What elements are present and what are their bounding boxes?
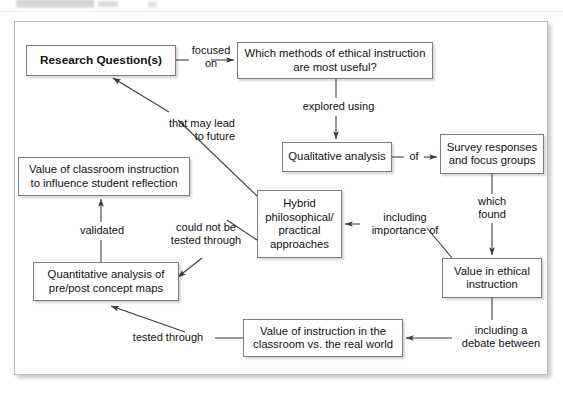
node-survey-responses[interactable]: Survey responses and focus groups: [440, 134, 544, 174]
node-qualitative-analysis[interactable]: Qualitative analysis: [282, 142, 392, 172]
edge-label-that-may-lead-to-future: that may lead to future: [151, 117, 235, 143]
edge-label-explored-using: explored using: [291, 100, 386, 113]
edge-label-could-not-be-tested-through: could not be tested through: [164, 221, 248, 247]
node-quantitative-analysis[interactable]: Quantitative analysis of pre/post concep…: [33, 262, 179, 301]
node-which-methods[interactable]: Which methods of ethical instruction are…: [237, 42, 433, 79]
edge-label-of: of: [404, 150, 424, 163]
edge-that-may-lead-arrow: [113, 78, 169, 112]
edge-label-focused-on: focused on: [186, 44, 236, 70]
edge-label-validated: validated: [73, 224, 131, 237]
node-hybrid-approaches[interactable]: Hybrid philosophical/ practical approach…: [257, 190, 342, 258]
node-value-classroom-instruction[interactable]: Value of classroom instruction to influe…: [18, 157, 190, 196]
edge-could-not-be-tested-arrow: [178, 258, 202, 277]
edge-label-including-a-debate-between: including a debate between: [454, 324, 548, 350]
edge-label-which-found: which found: [468, 195, 516, 221]
edge-label-tested-through: tested through: [122, 331, 214, 344]
node-value-ethical-instruction[interactable]: Value in ethical instruction: [442, 258, 542, 298]
edge-label-including-importance-of: including importance of: [362, 211, 448, 237]
edge-tested-through-arrow: [111, 306, 185, 332]
node-value-instruction-classroom-real-world[interactable]: Value of instruction in the classroom vs…: [243, 319, 403, 357]
node-research-question[interactable]: Research Question(s): [26, 45, 176, 76]
